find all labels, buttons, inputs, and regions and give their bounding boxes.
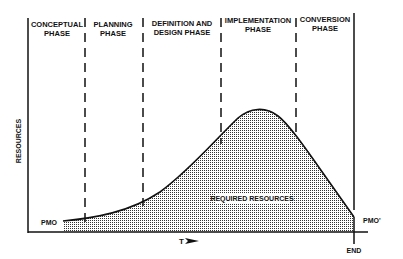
required-resources-label: REQUIRED RESOURCES [210,195,294,203]
svg-text:PHASE: PHASE [44,29,70,38]
x-axis-label: T [179,237,184,246]
svg-text:CONCEPTUAL: CONCEPTUAL [31,20,84,29]
svg-text:DEFINITION AND: DEFINITION AND [152,19,213,28]
pmo-start-label: PMO [41,219,58,226]
pmo-end-label: PMO' [363,217,381,224]
svg-text:PHASE: PHASE [245,25,271,34]
phase-label-implementation: IMPLEMENTATION PHASE [225,16,291,34]
svg-text:PLANNING: PLANNING [93,20,132,29]
svg-text:PHASE: PHASE [100,29,126,38]
svg-text:CONVERSION: CONVERSION [300,15,350,24]
phase-label-planning: PLANNING PHASE [93,20,132,38]
arrow-right-icon [185,238,199,244]
y-axis-label: RESOURCES [15,118,22,163]
project-lifecycle-diagram: CONCEPTUAL PHASE PLANNING PHASE DEFINITI… [0,0,403,259]
end-label: END [347,247,362,254]
svg-text:PHASE: PHASE [312,24,338,33]
svg-text:IMPLEMENTATION: IMPLEMENTATION [225,16,291,25]
phase-label-conversion: CONVERSION PHASE [300,15,350,33]
phase-label-definition-design: DEFINITION AND DESIGN PHASE [152,19,213,37]
svg-text:DESIGN PHASE: DESIGN PHASE [154,28,211,37]
phase-label-conceptual: CONCEPTUAL PHASE [31,20,84,38]
